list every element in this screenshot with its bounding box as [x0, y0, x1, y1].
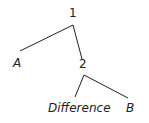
node-1: 1 — [69, 7, 77, 19]
edge-1-2 — [73, 25, 82, 59]
edge-1-A — [20, 25, 73, 51]
node-2: 2 — [79, 58, 87, 70]
edge-2-B — [84, 75, 128, 98]
leaf-B: B — [126, 102, 134, 114]
leaf-A: A — [13, 57, 21, 69]
leaf-difference: Difference — [48, 102, 111, 114]
edge-2-difference — [75, 75, 84, 97]
